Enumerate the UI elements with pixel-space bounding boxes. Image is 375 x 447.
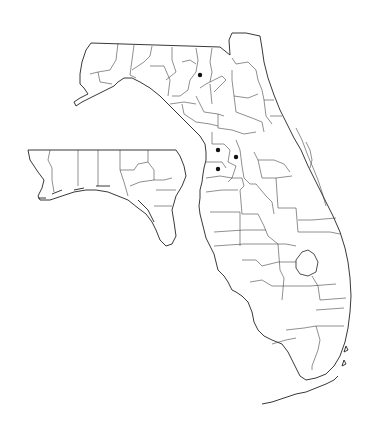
florida-county-map: [0, 0, 375, 447]
occurrence-marker: [216, 148, 220, 152]
occurrence-marker: [198, 73, 202, 77]
panhandle-inset: [28, 150, 186, 246]
florida-keys: [262, 376, 338, 404]
state-outline: [74, 33, 351, 404]
occurrence-marker: [234, 155, 238, 159]
occurrence-marker: [216, 167, 220, 171]
